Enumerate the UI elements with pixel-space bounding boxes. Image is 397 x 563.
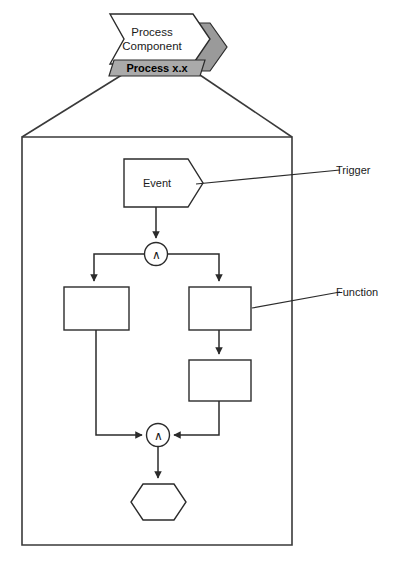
function-box-left[interactable] [64, 287, 129, 330]
function-box-right-top[interactable] [189, 287, 251, 330]
annotation-trigger-label: Trigger [336, 164, 371, 176]
process-diagram: Process Component Process x.x Event ∧ ∧ … [0, 0, 397, 563]
process-component-label-line2: Component [122, 40, 182, 52]
end-hexagon-shape[interactable] [131, 484, 186, 520]
process-component-label-line1: Process [131, 26, 173, 38]
event-shape-label: Event [143, 177, 171, 189]
connector-gate-1-operator-icon: ∧ [152, 248, 161, 262]
connector-gate-2-operator-icon: ∧ [154, 429, 163, 443]
process-version-label: Process x.x [126, 62, 188, 74]
annotation-function-label: Function [336, 286, 378, 298]
function-box-right-bottom[interactable] [189, 360, 251, 401]
